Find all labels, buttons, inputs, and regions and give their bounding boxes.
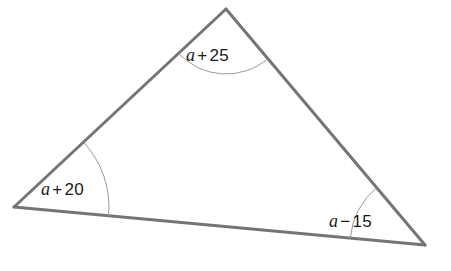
side-right-edge	[226, 9, 425, 245]
triangle-figure: a+25 a+20 a−15	[0, 0, 451, 271]
angle-label-apex-constant: 25	[210, 46, 230, 65]
angle-label-left-constant: 20	[65, 180, 85, 199]
left-angle-arc	[83, 142, 109, 216]
angle-label-left-operator: +	[51, 180, 64, 199]
triangle-diagram-svg	[0, 0, 451, 271]
angle-label-left: a+20	[41, 180, 84, 198]
angle-label-right-variable: a	[329, 211, 339, 231]
angle-label-right-constant: 15	[353, 212, 373, 231]
side-left-edge	[14, 9, 226, 207]
angle-label-apex-operator: +	[196, 46, 209, 65]
angle-label-apex-variable: a	[186, 45, 196, 65]
angle-label-apex: a+25	[186, 46, 229, 64]
triangle-sides	[14, 9, 425, 245]
angle-label-right-operator: −	[339, 212, 352, 231]
angle-label-right: a−15	[329, 212, 372, 230]
angle-label-left-variable: a	[41, 179, 51, 199]
